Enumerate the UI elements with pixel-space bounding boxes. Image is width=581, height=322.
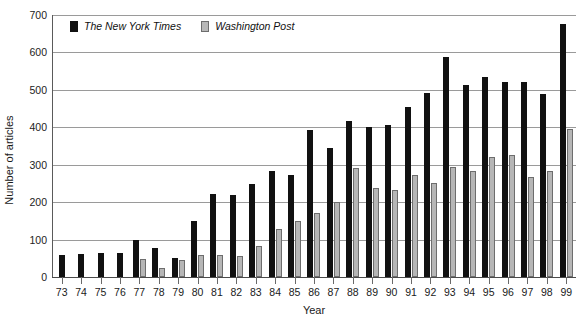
- y-axis-title: Number of articles: [3, 90, 15, 230]
- bar-nyt: [230, 195, 236, 277]
- x-axis-title: Year: [52, 304, 576, 316]
- bar-nyt: [210, 194, 216, 277]
- bar-nyt: [269, 171, 275, 277]
- bar-nyt: [366, 127, 372, 277]
- bar-nyt: [502, 82, 508, 277]
- bar-group: [130, 15, 149, 277]
- bar-nyt: [443, 57, 449, 277]
- bar-nyt: [78, 254, 84, 277]
- x-tick: [227, 277, 246, 285]
- x-tick: [324, 277, 343, 285]
- x-tick: [363, 277, 382, 285]
- x-axis-label: 77: [130, 286, 149, 298]
- bar-nyt: [98, 253, 104, 277]
- y-axis-label: 600: [29, 46, 47, 58]
- bar-nyt: [59, 255, 65, 277]
- x-tick: [130, 277, 149, 285]
- bar-group: [110, 15, 129, 277]
- x-axis-label: 81: [207, 286, 226, 298]
- x-axis-label: 96: [498, 286, 517, 298]
- bar-wp: [392, 190, 398, 277]
- bar-wp: [295, 221, 301, 277]
- x-axis-label: 80: [188, 286, 207, 298]
- bar-wp: [431, 183, 437, 277]
- legend-item-wp: Washington Post: [201, 20, 294, 32]
- bar-nyt: [540, 94, 546, 277]
- bar-nyt: [172, 258, 178, 277]
- bar-nyt: [463, 85, 469, 277]
- bar-group: [479, 15, 498, 277]
- x-tick: [518, 277, 537, 285]
- bar-group: [324, 15, 343, 277]
- bar-nyt: [560, 24, 566, 277]
- x-tick: [537, 277, 556, 285]
- x-tick: [110, 277, 129, 285]
- x-tick: [498, 277, 517, 285]
- x-axis-label: 90: [382, 286, 401, 298]
- legend: The New York Times Washington Post: [70, 20, 294, 32]
- x-axis-label: 79: [168, 286, 187, 298]
- bar-group: [207, 15, 226, 277]
- bar-wp: [198, 255, 204, 277]
- y-axis-label: 200: [29, 196, 47, 208]
- x-axis-label: 87: [324, 286, 343, 298]
- bar-group: [401, 15, 420, 277]
- bar-nyt: [521, 82, 527, 277]
- bar-wp: [489, 157, 495, 277]
- x-tick: [440, 277, 459, 285]
- bar-group: [285, 15, 304, 277]
- bar-nyt: [249, 184, 255, 277]
- x-axis-label: 97: [518, 286, 537, 298]
- bar-group: [91, 15, 110, 277]
- x-tick: [168, 277, 187, 285]
- bar-group: [440, 15, 459, 277]
- bar-group: [363, 15, 382, 277]
- bar-wp: [353, 168, 359, 277]
- x-axis-label: 85: [285, 286, 304, 298]
- x-tick: [421, 277, 440, 285]
- x-axis-label: 92: [421, 286, 440, 298]
- x-axis-label: 73: [52, 286, 71, 298]
- x-axis-label: 99: [557, 286, 576, 298]
- bar-group: [557, 15, 576, 277]
- bar-wp: [509, 155, 515, 277]
- bar-group: [168, 15, 187, 277]
- bar-wp: [276, 229, 282, 277]
- x-axis-label: 75: [91, 286, 110, 298]
- bar-group: [52, 15, 71, 277]
- bar-wp: [450, 167, 456, 277]
- bar-wp: [528, 177, 534, 277]
- x-tick: [343, 277, 362, 285]
- x-axis-label: 78: [149, 286, 168, 298]
- bar-chart: 700 600 500 400 300 200 100 0 Number of …: [0, 0, 581, 322]
- bar-nyt: [385, 125, 391, 277]
- x-tick: [188, 277, 207, 285]
- bar-nyt: [327, 148, 333, 277]
- bar-wp: [314, 213, 320, 277]
- y-axis-label: 700: [29, 9, 47, 21]
- bar-group: [537, 15, 556, 277]
- bar-wp: [412, 175, 418, 277]
- bar-nyt: [152, 248, 158, 277]
- bar-wp: [179, 260, 185, 277]
- x-tick: [91, 277, 110, 285]
- bar-nyt: [424, 93, 430, 277]
- x-axis-label: 98: [537, 286, 556, 298]
- x-tick: [382, 277, 401, 285]
- bar-group: [498, 15, 517, 277]
- bar-nyt: [288, 175, 294, 277]
- bar-group: [460, 15, 479, 277]
- x-axis-label: 88: [343, 286, 362, 298]
- bar-group: [421, 15, 440, 277]
- legend-label-nyt: The New York Times: [84, 20, 181, 32]
- legend-label-wp: Washington Post: [215, 20, 294, 32]
- bar-wp: [373, 188, 379, 277]
- legend-swatch-icon-nyt: [70, 21, 78, 32]
- y-axis-title-holder: Number of articles: [8, 40, 28, 240]
- bar-wp: [567, 129, 573, 277]
- bar-group: [304, 15, 323, 277]
- x-axis-label: 93: [440, 286, 459, 298]
- cropped-caption: [0, 0, 581, 2]
- bar-nyt: [307, 130, 313, 277]
- x-axis-label: 83: [246, 286, 265, 298]
